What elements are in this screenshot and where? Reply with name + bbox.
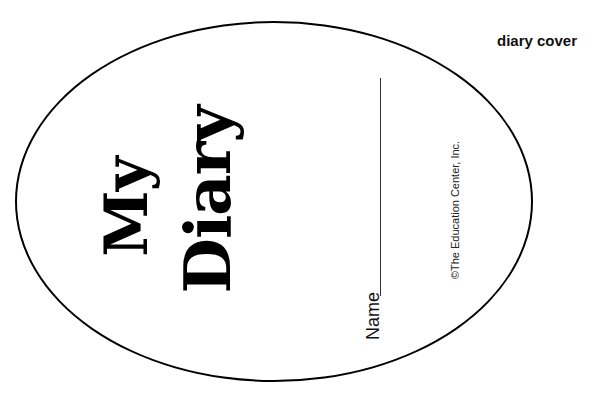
copyright-text: ©The Education Center, Inc. — [450, 141, 461, 279]
title-my: My — [96, 157, 156, 256]
page-label: diary cover — [497, 32, 577, 49]
name-write-line[interactable] — [380, 78, 381, 296]
name-label: Name — [364, 292, 382, 340]
title-diary: Diary — [176, 106, 240, 293]
